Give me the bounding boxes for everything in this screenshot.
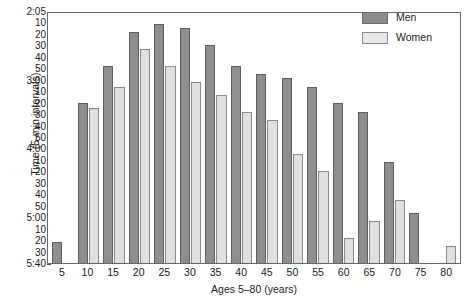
bar-men	[256, 74, 266, 263]
bar-men	[409, 213, 419, 263]
bar-group	[433, 13, 459, 263]
x-tick-label: 45	[254, 266, 280, 278]
x-tick-label: 50	[280, 266, 306, 278]
bar-group	[254, 13, 280, 263]
legend-label-men: Men	[396, 12, 416, 23]
y-tick-label: 30	[35, 248, 46, 258]
legend-item-men: Men	[362, 10, 457, 25]
bar-women	[114, 87, 124, 263]
y-tick-label: 3:00	[27, 76, 46, 86]
x-tick-label: 10	[75, 266, 101, 278]
x-axis-title: Ages 5–80 (years)	[47, 283, 461, 295]
bar-men	[307, 87, 317, 263]
y-tick-label: 2:05	[27, 7, 46, 17]
bar-group	[305, 13, 331, 263]
bar-men	[180, 28, 190, 263]
x-tick-label: 25	[152, 266, 178, 278]
y-tick-label: 10	[35, 225, 46, 235]
bar-women	[395, 200, 405, 263]
bar-group	[101, 13, 127, 263]
bar-group	[50, 13, 76, 263]
x-tick-label: 80	[433, 266, 459, 278]
bar-group	[76, 13, 102, 263]
bar-group	[152, 13, 178, 263]
bar-women	[267, 120, 277, 263]
bar-group	[203, 13, 229, 263]
bar-group	[382, 13, 408, 263]
bar-group	[229, 13, 255, 263]
x-tick-label: 20	[126, 266, 152, 278]
x-tick-label: 35	[203, 266, 229, 278]
bar-group	[356, 13, 382, 263]
legend-label-women: Women	[396, 32, 432, 43]
bar-women	[318, 171, 328, 263]
bar-women	[89, 108, 99, 263]
bar-men	[129, 32, 139, 263]
bar-men	[78, 103, 88, 263]
y-tick-label: 5:40	[27, 259, 46, 269]
bar-women	[140, 49, 150, 263]
bar-men	[358, 112, 368, 263]
y-tick-label: 50	[35, 202, 46, 212]
bar-women	[344, 238, 354, 263]
bar-men	[103, 66, 113, 263]
y-tick-label: 40	[35, 190, 46, 200]
bar-women	[446, 246, 456, 263]
legend-swatch-men-icon	[362, 12, 388, 24]
x-tick-label: 75	[408, 266, 434, 278]
bar-group	[127, 13, 153, 263]
bar-women	[369, 221, 379, 263]
bar-men	[52, 242, 62, 263]
bar-women	[191, 82, 201, 263]
x-tick-label: 30	[177, 266, 203, 278]
y-tick-label: 10	[35, 156, 46, 166]
y-tick-label: 20	[35, 99, 46, 109]
x-tick-label: 40	[228, 266, 254, 278]
y-tick-label: 30	[35, 110, 46, 120]
y-tick-label: 20	[35, 167, 46, 177]
bar-women	[242, 112, 252, 263]
bar-women	[293, 154, 303, 263]
bar-women	[216, 95, 226, 263]
y-tick-label: 40	[35, 53, 46, 63]
y-tick-mark	[47, 264, 51, 265]
bar-men	[231, 66, 241, 263]
bar-men	[384, 162, 394, 263]
bar-groups	[48, 13, 460, 263]
y-tick-label: 30	[35, 179, 46, 189]
bar-men	[333, 103, 343, 263]
legend-swatch-women-icon	[362, 32, 388, 44]
legend: Men Women	[362, 10, 457, 50]
y-axis-tick-labels: 2:0510203040503:0010203040504:0010203040…	[14, 0, 46, 301]
bar-group	[331, 13, 357, 263]
bar-men	[154, 24, 164, 263]
x-tick-label: 70	[382, 266, 408, 278]
x-tick-label: 5	[49, 266, 75, 278]
bar-chart-figure: Time (5-min intervals) 2:0510203040503:0…	[0, 0, 468, 301]
y-tick-label: 30	[35, 41, 46, 51]
y-tick-label: 50	[35, 64, 46, 74]
bar-group	[280, 13, 306, 263]
y-tick-label: 4:00	[27, 144, 46, 154]
bar-men	[205, 45, 215, 263]
bar-group	[407, 13, 433, 263]
bar-men	[282, 78, 292, 263]
x-tick-label: 15	[100, 266, 126, 278]
y-tick-label: 40	[35, 122, 46, 132]
x-tick-label: 60	[331, 266, 357, 278]
y-tick-label: 5:00	[27, 213, 46, 223]
y-tick-label: 10	[35, 87, 46, 97]
y-tick-label: 20	[35, 236, 46, 246]
bar-group	[178, 13, 204, 263]
bar-women	[165, 66, 175, 263]
y-tick-label: 10	[35, 18, 46, 28]
x-tick-label: 65	[357, 266, 383, 278]
x-axis-tick-labels: 5101520253035404550556065707580	[47, 266, 461, 278]
legend-item-women: Women	[362, 30, 457, 45]
y-tick-label: 20	[35, 30, 46, 40]
x-tick-label: 55	[305, 266, 331, 278]
y-tick-label: 50	[35, 133, 46, 143]
